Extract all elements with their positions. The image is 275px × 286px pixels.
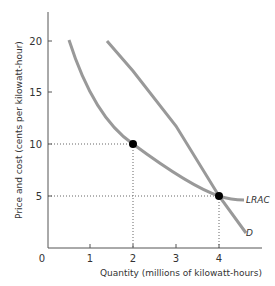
chart: 20 15 10 5 0 1 2 3 4 Quantity (millions … <box>0 0 275 286</box>
chart-svg: 20 15 10 5 0 1 2 3 4 Quantity (millions … <box>0 0 275 286</box>
y-tick-10: 10 <box>29 139 42 150</box>
y-tick-5: 5 <box>36 191 42 202</box>
point-2-10 <box>129 140 137 148</box>
demand-label: D <box>246 228 253 238</box>
point-4-5 <box>215 192 223 200</box>
x-tick-3: 3 <box>173 253 179 264</box>
demand-curve <box>107 41 246 233</box>
lrac-label: LRAC <box>246 195 270 205</box>
x-tick-2: 2 <box>130 253 136 264</box>
y-axis-label: Price and cost (cents per kilowatt-hour) <box>14 41 24 219</box>
x-tick-1: 1 <box>87 253 93 264</box>
x-tick-0: 0 <box>39 253 45 264</box>
x-tick-4: 4 <box>216 253 222 264</box>
y-tick-15: 15 <box>29 87 42 98</box>
y-tick-20: 20 <box>29 36 42 47</box>
x-axis-label: Quantity (millions of kilowatt-hours) <box>100 268 262 278</box>
lrac-curve <box>69 40 244 200</box>
